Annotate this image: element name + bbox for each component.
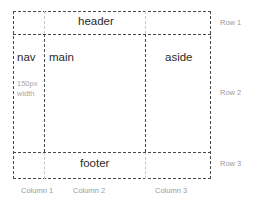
column-guide-1-header	[44, 11, 45, 34]
grid-layout-diagram: header nav main aside footer 150px width…	[0, 0, 257, 203]
column-label-1: Column 1	[21, 186, 53, 195]
nav-width-annotation: 150px width	[17, 79, 43, 98]
row-label-1: Row 1	[220, 18, 241, 27]
column-divider-nav-main	[44, 34, 45, 152]
region-label-footer: footer	[80, 157, 109, 170]
row-label-2: Row 2	[220, 88, 241, 97]
column-label-3: Column 3	[155, 186, 187, 195]
region-label-header: header	[78, 15, 114, 28]
row-divider-footer-top	[13, 152, 211, 153]
column-guide-2-header	[145, 11, 146, 34]
column-divider-main-aside	[145, 34, 146, 152]
column-label-2: Column 2	[73, 186, 105, 195]
region-label-aside: aside	[165, 51, 193, 64]
column-guide-1-footer	[44, 152, 45, 179]
region-label-nav: nav	[17, 51, 36, 64]
row-divider-header-bottom	[13, 34, 211, 35]
region-label-main: main	[49, 51, 74, 64]
row-label-3: Row 3	[220, 159, 241, 168]
column-guide-2-footer	[145, 152, 146, 179]
